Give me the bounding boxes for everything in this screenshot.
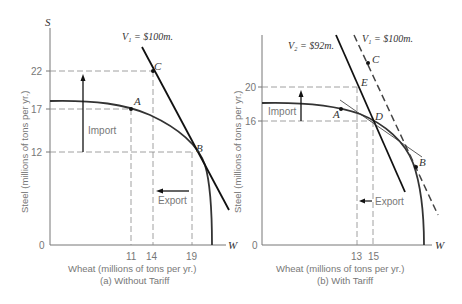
panel-b-label-e: E [360,76,368,88]
panel-b-v2-line [336,35,405,192]
panel-b-ytick-20: 20 [245,82,257,93]
panel-a-v1-label: V₁ = $100m. [122,31,173,42]
panel-b-label-d: D [374,110,383,122]
panel-a-ytick-12: 12 [31,147,43,158]
panel-a-y-axis-letter: S [45,16,51,28]
panel-b-label-c: C [372,53,380,65]
panel-a-xtick-19: 19 [186,251,198,262]
panel-a-origin-label: 0 [39,240,45,251]
panel-a-ytick-17: 17 [31,104,43,115]
panel-b-label-a: A [332,108,340,120]
panel-b-xtick-13: 13 [351,251,363,262]
panel-b-xtick-15: 15 [368,251,380,262]
panel-b-v1-label: V₁ = $100m. [362,33,413,44]
panel-a-label-a: A [133,95,141,107]
panel-b-ppf-curve [262,103,424,245]
arrow-left-icon [359,199,365,204]
panel-a-ytick-22: 22 [31,66,43,77]
panel-a-xtick-11: 11 [126,251,137,262]
panel-b: W 0 20 16 13 15 V₁ = $100m. V₂ = $92m. [232,33,445,286]
panel-a-point-a [129,107,133,111]
panel-a-label-b: B [196,142,203,154]
panel-b-v2-label: V₂ = $92m. [288,40,334,51]
panel-a-xtick-14: 14 [146,251,158,262]
panel-a-ylabel: Steel (millions of tons per yr.) [19,91,30,214]
panel-b-tangent-line [340,100,422,157]
panel-b-import-label: Import [268,106,297,117]
panel-a-x-axis-letter: W [228,239,238,251]
panel-b-export-label: Export [375,196,404,207]
panel-b-xlabel: Wheat (millions of tons per yr.) [276,263,404,274]
panel-b-label-b: B [419,156,426,168]
trade-tariff-figure: S W 0 22 17 12 11 14 19 V₁ = $100m. A [0,0,462,304]
panel-a-caption: (a) Without Tariff [100,275,170,286]
panel-a-import-label: Import [88,125,117,136]
panel-a-xlabel: Wheat (millions of tons per yr.) [68,263,196,274]
panel-a-export-label: Export [158,195,187,206]
arrow-up-icon [81,74,86,81]
arrow-up-icon [299,90,304,97]
panel-b-caption: (b) With Tariff [317,275,373,286]
panel-b-point-c [366,61,370,65]
panel-b-x-axis-letter: W [435,239,445,251]
panel-a: S W 0 22 17 12 11 14 19 V₁ = $100m. A [19,16,238,286]
panel-a-label-c: C [154,60,162,72]
panel-b-point-b [414,165,418,169]
panel-a-guides [50,71,192,245]
arrow-left-icon [156,189,163,194]
panel-b-ytick-16: 16 [245,116,257,127]
panel-b-origin-label: 0 [252,240,258,251]
panel-b-ylabel: Steel (millions of tons per yr.) [232,91,243,214]
